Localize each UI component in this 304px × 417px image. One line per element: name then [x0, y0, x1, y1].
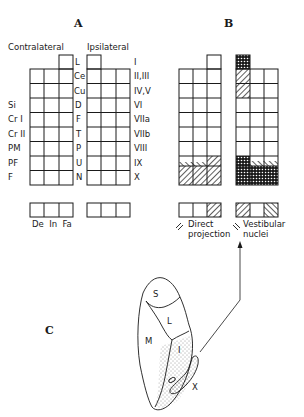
grid-b-left: [179, 55, 221, 185]
grid-b-right: [236, 55, 278, 185]
arrowhead-icon: [238, 241, 243, 248]
nuclei-boxes-a: [30, 203, 130, 217]
grid-a-contralateral: [30, 55, 73, 185]
legend-swatches: [176, 223, 240, 230]
diagram-graphics: [0, 0, 304, 417]
nuclei-boxes-b: [179, 203, 278, 217]
arrow-c-to-b: [200, 247, 240, 352]
grid-a-ipsilateral: [87, 55, 130, 185]
vestibular-nuclei-drawing: [138, 278, 198, 410]
